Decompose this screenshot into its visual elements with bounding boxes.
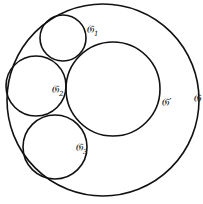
label-g-outer: 𝔊 — [193, 92, 202, 105]
label-g2: 𝔊2 — [51, 83, 64, 98]
circle-chain-diagram: 𝔊1 𝔊2 𝔊3 𝔊′ 𝔊 — [0, 0, 203, 204]
label-g-prime: 𝔊′ — [161, 96, 172, 109]
circle-g-prime — [66, 42, 160, 136]
circle-g1 — [40, 15, 86, 61]
label-g1: 𝔊1 — [86, 23, 98, 38]
diagram-canvas: 𝔊1 𝔊2 𝔊3 𝔊′ 𝔊 — [0, 0, 203, 204]
